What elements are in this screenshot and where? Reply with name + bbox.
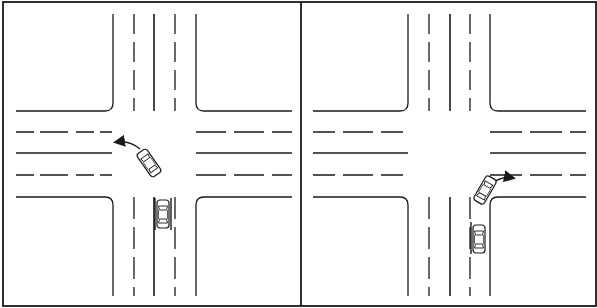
left-panel [16, 14, 292, 296]
intersection-diagram [0, 0, 597, 308]
curb-bottom-right [490, 197, 586, 296]
curb-top-right [490, 14, 586, 111]
waiting-car-icon [157, 200, 169, 228]
right-turn-arrow-icon [494, 178, 513, 183]
curb-bottom-left [313, 197, 408, 296]
diagram-canvas [0, 0, 597, 308]
curb-bottom-right [196, 197, 292, 296]
frame-border [3, 2, 596, 306]
turning-car-icon [473, 175, 497, 205]
waiting-car-icon [473, 225, 485, 253]
curb-top-left [313, 14, 408, 111]
left-turn-arrow-icon [116, 142, 140, 149]
turning-car-icon [136, 148, 162, 178]
curb-top-right [196, 14, 292, 111]
right-panel [313, 14, 586, 296]
curb-top-left [16, 14, 113, 111]
curb-bottom-left [16, 197, 113, 296]
